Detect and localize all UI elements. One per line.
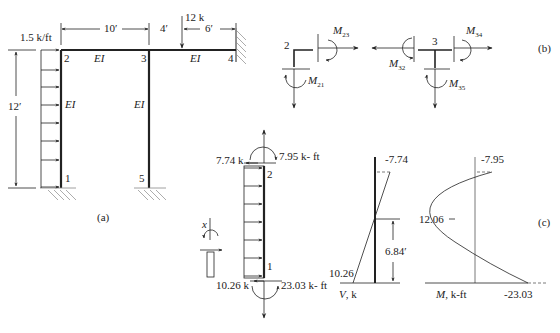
m35-label: M35 xyxy=(448,77,466,92)
fixed-support-4 xyxy=(236,28,246,64)
dim-4ft: 4′ xyxy=(160,22,168,34)
bottom-moment-label: 23.03 k- ft xyxy=(281,279,327,291)
fixed-support-5 xyxy=(134,188,166,200)
shear-top-value: -7.74 xyxy=(385,153,408,165)
shear-axis-label: V, k xyxy=(339,288,357,300)
figure-c-member-fbd: 2 1 7.74 k 7.95 k- ft 10.26 k 23.03 k- f… xyxy=(200,130,327,318)
m32-label: M32 xyxy=(388,57,406,72)
dim-12ft: 12′ xyxy=(8,100,21,112)
x-label: x xyxy=(201,218,207,230)
shear-bottom-value: 10.26 xyxy=(329,267,354,279)
ei-label-23: EI xyxy=(93,52,106,64)
ei-label-12: EI xyxy=(64,98,77,110)
fbd-node-1: 1 xyxy=(267,260,273,272)
fbd-node-2: 2 xyxy=(267,168,273,180)
figure-a-frame: 1.5 k/ft 12 k 10′ 4′ 6′ 12′ 2 3 4 1 5 EI… xyxy=(8,11,246,224)
node-1-label: 1 xyxy=(65,172,71,184)
joint-2-label: 2 xyxy=(284,39,290,51)
moment-diagram: -7.95 12.06 -23.03 M, k-ft xyxy=(419,153,548,300)
caption-a: (a) xyxy=(97,211,110,224)
dim-10ft: 10′ xyxy=(104,22,117,34)
node-4-label: 4 xyxy=(228,52,234,64)
sign-convention-icon: x xyxy=(200,218,222,277)
moment-top-value: -7.95 xyxy=(481,153,504,165)
ei-label-34: EI xyxy=(189,52,202,64)
m21-label: M21 xyxy=(307,74,325,89)
ei-label-35: EI xyxy=(133,98,146,110)
caption-c: (c) xyxy=(538,216,551,229)
m23-label: M23 xyxy=(332,24,350,39)
m34-label: M34 xyxy=(465,24,483,39)
top-shear-label: 7.74 k xyxy=(216,154,244,166)
figure-b-joint-fbd: 2 M23 M21 3 M32 M34 M35 (b) xyxy=(282,24,551,108)
shear-zero-location: 6.84′ xyxy=(385,245,407,257)
fixed-support-1 xyxy=(40,188,76,200)
bottom-shear-label: 10.26 k xyxy=(216,279,250,291)
moment-axis-label: M, k-ft xyxy=(435,288,467,300)
moment-bottom-value: -23.03 xyxy=(504,288,533,300)
caption-b: (b) xyxy=(538,42,551,55)
dim-6ft: 6′ xyxy=(205,22,213,34)
shear-diagram: -7.74 10.26 6.84′ V, k xyxy=(329,153,408,300)
point-load-label: 12 k xyxy=(185,11,205,23)
top-moment-label: 7.95 k- ft xyxy=(279,150,320,162)
frame-analysis-figure: 1.5 k/ft 12 k 10′ 4′ 6′ 12′ 2 3 4 1 5 EI… xyxy=(0,0,560,333)
node-3-label: 3 xyxy=(141,52,147,64)
load-label: 1.5 k/ft xyxy=(20,31,52,43)
node-5-label: 5 xyxy=(139,172,145,184)
joint-3-label: 3 xyxy=(432,35,438,47)
moment-peak-value: 12.06 xyxy=(419,213,444,225)
node-2-label: 2 xyxy=(64,52,70,64)
distributed-load xyxy=(41,50,59,188)
